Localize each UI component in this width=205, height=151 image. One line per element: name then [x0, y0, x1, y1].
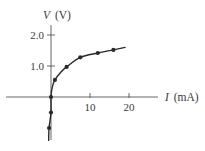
- y-tick-label: 1.0: [30, 60, 44, 72]
- data-point-marker: [96, 51, 100, 55]
- x-axis-unit: (mA): [174, 91, 199, 104]
- x-axis-symbol: I: [164, 91, 170, 103]
- y-axis-symbol: V: [43, 9, 52, 21]
- y-axis-unit: (V): [55, 9, 71, 22]
- y-tick-label: 2.0: [30, 29, 44, 41]
- vi-characteristic-chart: 10201.02.0 V (V) I (mA): [0, 0, 205, 151]
- x-axis-label: I (mA): [164, 91, 199, 104]
- data-point-marker: [49, 95, 53, 99]
- x-tick-label: 20: [124, 101, 136, 113]
- data-curve: [49, 47, 125, 140]
- data-point-marker: [47, 126, 51, 130]
- y-axis-label: V (V): [43, 9, 71, 22]
- data-point-marker: [65, 65, 69, 69]
- axis-ticks: 10201.02.0: [30, 29, 135, 113]
- data-point-marker: [53, 78, 57, 82]
- data-markers: [47, 48, 116, 130]
- x-tick-label: 10: [85, 101, 97, 113]
- axes: [6, 25, 158, 140]
- data-point-marker: [111, 48, 115, 52]
- characteristic-curve: [49, 47, 125, 140]
- data-point-marker: [49, 110, 53, 114]
- data-point-marker: [78, 55, 82, 59]
